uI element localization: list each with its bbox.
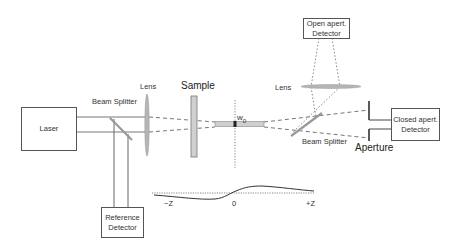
closed-aperture-detector-box: Closed apert. Detector: [391, 108, 440, 141]
diverging-beam: [264, 110, 369, 138]
sample-icon: [191, 96, 197, 157]
aperture-to-detector-lines: [369, 120, 391, 129]
reference-detector-line1: Reference: [105, 213, 140, 222]
w0-label: w0: [237, 114, 246, 124]
zscan-trace: [152, 186, 315, 199]
lens-right-icon: [301, 85, 361, 89]
beam-splitter-left-label: Beam Splitter: [92, 98, 137, 106]
open-detector-line2: Detector: [307, 29, 347, 38]
zscan-label-plus-z: +Z: [306, 200, 315, 208]
zscan-label-zero: 0: [232, 200, 236, 208]
closed-detector-line1: Closed apert.: [393, 115, 438, 124]
lens-right-label: Lens: [275, 84, 291, 92]
beam-splitter-right-label: Beam Splitter: [302, 138, 347, 146]
zscan-curve: [154, 186, 314, 199]
aperture-label: Aperture: [355, 143, 393, 153]
lens-left-label: Lens: [140, 83, 156, 91]
sample-label: Sample: [181, 81, 215, 91]
beam-splitter-left-icon: [110, 118, 132, 140]
converging-beam: [149, 117, 215, 132]
reference-detector-line2: Detector: [105, 223, 140, 232]
lens-left-icon: [145, 94, 149, 156]
beam-splitter-right-icon: [291, 113, 322, 136]
open-detector-line1: Open apert.: [307, 19, 347, 28]
open-aperture-detector-box: Open apert. Detector: [303, 18, 350, 39]
closed-detector-line2: Detector: [393, 125, 438, 134]
zscan-label-minus-z: −Z: [164, 200, 173, 208]
laser-box: Laser: [21, 107, 77, 151]
reference-detector-box: Reference Detector: [101, 207, 144, 238]
laser-label: Laser: [40, 124, 59, 133]
